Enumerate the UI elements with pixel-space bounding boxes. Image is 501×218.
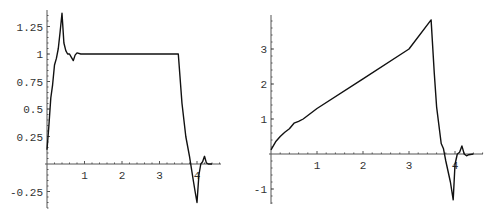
y-tick-label: 0.5	[23, 104, 43, 116]
x-tick-label: 2	[119, 170, 126, 182]
x-tick-label: 2	[360, 160, 367, 172]
left-response-line	[47, 13, 212, 202]
y-tick-label: 1	[260, 114, 267, 126]
y-tick-label: -1	[254, 184, 268, 196]
y-tick-label: 0.75	[17, 77, 43, 89]
right-response-line	[271, 20, 473, 200]
y-tick-label: 2	[260, 79, 267, 91]
x-tick-label: 3	[406, 160, 413, 172]
y-tick-label: -0.25	[10, 187, 43, 199]
y-tick-label: 1.25	[17, 22, 43, 34]
figure: 1234-0.250.250.50.7511.25 1234-1123	[0, 0, 501, 218]
right-chart: 1234-1123	[254, 15, 483, 204]
left-chart: 1234-0.250.250.50.7511.25	[10, 10, 221, 208]
x-tick-label: 3	[156, 170, 163, 182]
y-tick-label: 1	[36, 49, 43, 61]
x-tick-label: 1	[314, 160, 321, 172]
y-tick-label: 3	[260, 44, 267, 56]
x-tick-label: 1	[81, 170, 88, 182]
y-tick-label: 0.25	[17, 132, 43, 144]
